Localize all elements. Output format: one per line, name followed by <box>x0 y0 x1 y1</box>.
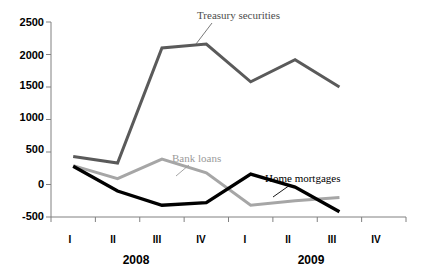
y-axis-ticks <box>46 22 51 217</box>
line-chart: 2500 2000 1500 1000 500 0 -500 I II III … <box>0 0 424 273</box>
leader-line-home-mortgages <box>273 185 290 197</box>
series-line-bank-loans <box>73 159 339 205</box>
series-line-treasury-securities <box>73 44 339 163</box>
leader-line-treasury-securities <box>196 23 212 44</box>
plot-area <box>0 0 424 273</box>
x-axis-ticks <box>51 217 406 222</box>
